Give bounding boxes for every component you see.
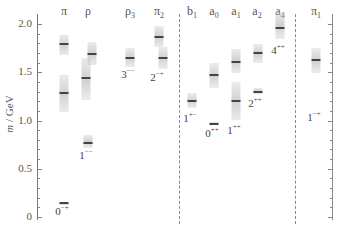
channel-subscript: 1 — [237, 11, 241, 20]
channel-label: π — [61, 4, 67, 19]
right-minor-tick — [330, 149, 332, 150]
y-minor-tick — [37, 169, 40, 170]
right-minor-tick — [330, 53, 332, 54]
y-minor-tick — [37, 188, 40, 189]
right-minor-tick — [330, 111, 332, 112]
y-minor-tick — [37, 159, 40, 160]
mass-line — [60, 92, 69, 94]
y-tick-label: 2.0 — [8, 17, 32, 29]
mass-line — [60, 202, 69, 204]
right-minor-tick — [330, 43, 332, 44]
right-minor-tick — [330, 24, 332, 25]
right-minor-tick — [330, 63, 332, 64]
jpc-superscript: −− — [127, 67, 135, 75]
jpc-superscript: +− — [189, 111, 197, 119]
right-minor-tick — [330, 130, 332, 131]
right-minor-tick — [330, 188, 332, 189]
right-minor-tick — [330, 169, 332, 170]
y-axis — [37, 14, 38, 220]
channel-subscript: 2 — [258, 11, 262, 20]
y-minor-tick — [37, 101, 40, 102]
right-minor-tick — [330, 72, 332, 73]
right-minor-tick — [330, 140, 332, 141]
right-minor-tick — [330, 121, 332, 122]
channel-label: π2 — [154, 4, 164, 20]
jpc-label: 1−+ — [307, 110, 320, 123]
channel-label: ρ — [85, 4, 91, 19]
mass-line — [188, 100, 197, 102]
right-minor-tick — [330, 82, 332, 83]
jpc-label: 2++ — [248, 96, 261, 109]
mass-line — [254, 91, 263, 93]
y-minor-tick — [37, 207, 40, 208]
jpc-label: 2−+ — [150, 70, 163, 83]
y-minor-tick — [37, 178, 40, 179]
right-minor-tick — [330, 92, 332, 93]
jpc-label: 4++ — [271, 43, 284, 56]
dashed-separator — [295, 14, 296, 224]
mass-line — [159, 57, 168, 59]
jpc-label: 0−+ — [55, 204, 68, 217]
mass-line — [60, 43, 69, 45]
y-minor-tick — [37, 63, 40, 64]
channel-label: a2 — [252, 4, 261, 20]
y-minor-tick — [37, 111, 40, 112]
y-axis-title-symbol: m — [3, 125, 15, 133]
y-minor-tick — [37, 72, 40, 73]
right-minor-tick — [330, 207, 332, 208]
mass-line — [210, 74, 219, 76]
right-minor-tick — [330, 198, 332, 199]
y-minor-tick — [37, 34, 40, 35]
dashed-separator — [179, 14, 180, 224]
meson-spectrum-chart: m / GeV 00.51.01.52.0 π0−+ρ1−−ρ33−−π22−+… — [0, 0, 342, 230]
y-minor-tick — [37, 43, 40, 44]
mass-line — [232, 61, 241, 63]
right-minor-tick — [330, 159, 332, 160]
y-minor-tick — [37, 82, 40, 83]
mass-line — [210, 123, 219, 125]
jpc-superscript: ++ — [211, 126, 219, 134]
jpc-superscript: −+ — [156, 70, 164, 78]
jpc-superscript: −− — [85, 148, 93, 156]
y-minor-tick — [37, 53, 40, 54]
jpc-superscript: ++ — [277, 43, 285, 51]
y-tick-label: 0 — [8, 210, 32, 222]
jpc-label: 1−− — [79, 148, 92, 161]
jpc-label: 3−− — [121, 67, 134, 80]
y-minor-tick — [37, 24, 40, 25]
y-minor-tick — [37, 140, 40, 141]
channel-label: π1 — [311, 4, 321, 20]
jpc-superscript: ++ — [254, 96, 262, 104]
jpc-label: 1++ — [227, 123, 240, 136]
right-minor-tick — [330, 178, 332, 179]
mass-line — [254, 52, 263, 54]
mass-line — [232, 100, 241, 102]
channel-label: a0 — [209, 4, 218, 20]
mass-line — [84, 142, 93, 144]
mass-line — [82, 77, 91, 79]
y-tick-label: 0.5 — [8, 162, 32, 174]
y-minor-tick — [37, 92, 40, 93]
mass-line — [88, 53, 97, 55]
channel-label: ρ3 — [125, 4, 135, 20]
jpc-superscript: −+ — [61, 204, 69, 212]
channel-subscript: 2 — [160, 11, 164, 20]
jpc-label: 0++ — [205, 126, 218, 139]
mass-line — [312, 59, 321, 61]
jpc-superscript: −+ — [313, 110, 321, 118]
mass-line — [126, 57, 135, 59]
channel-subscript: 1 — [317, 11, 321, 20]
jpc-superscript: ++ — [233, 123, 241, 131]
right-minor-tick — [330, 101, 332, 102]
y-minor-tick — [37, 130, 40, 131]
right-minor-tick — [330, 34, 332, 35]
channel-label: a1 — [231, 4, 240, 20]
y-minor-tick — [37, 198, 40, 199]
y-minor-tick — [37, 149, 40, 150]
channel-subscript: 0 — [215, 11, 219, 20]
right-minor-tick — [330, 217, 332, 218]
y-tick-label: 1.0 — [8, 114, 32, 126]
channel-subscript: 3 — [131, 11, 135, 20]
jpc-label: 1+− — [183, 111, 196, 124]
y-minor-tick — [37, 121, 40, 122]
